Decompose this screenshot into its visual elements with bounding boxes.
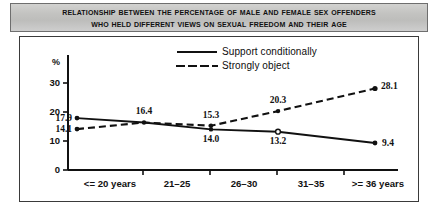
data-label-object-4: 28.1	[381, 81, 398, 91]
data-point-object-3	[276, 109, 280, 113]
x-tick-label-3: 31–35	[298, 178, 325, 189]
data-point-support-3	[276, 129, 281, 134]
x-tick-label-0: <= 20 years	[84, 178, 136, 189]
chart-title-banner: Relationship between the Percentage of M…	[10, 3, 428, 32]
y-tick-label-10: 10	[49, 135, 60, 146]
plot-frame: Support conditionally Strongly object	[19, 36, 419, 202]
data-point-object-2	[209, 124, 213, 128]
data-label-shared-1: 16.4	[136, 106, 153, 116]
data-label-object-3: 20.3	[270, 95, 287, 105]
chart-title-line-2: Who Held Different Views on Sexual Freed…	[91, 18, 347, 30]
x-tick-label-2: 26–30	[231, 178, 258, 189]
data-label-object-0: 14.1	[55, 124, 72, 134]
data-label-support-3: 13.2	[270, 136, 287, 146]
x-tick-label-4: >= 36 years	[352, 178, 404, 189]
data-label-object-2: 15.3	[203, 110, 220, 120]
y-axis-unit-label: %	[52, 57, 60, 67]
x-tick-label-1: 21–25	[164, 178, 191, 189]
data-label-support-2: 14.0	[203, 134, 220, 144]
y-tick-label-0: 0	[55, 164, 60, 175]
data-point-object-0	[75, 127, 80, 132]
series-line-strongly-object	[77, 89, 375, 130]
chart-plot-area: % 0 10 20 30 <= 20 years 21–25 26–30 31–…	[20, 37, 418, 201]
figure-container: Relationship between the Percentage of M…	[0, 0, 438, 210]
data-label-support-4: 9.4	[382, 138, 394, 148]
chart-title-line-1: Relationship between the Percentage of M…	[62, 6, 376, 18]
data-label-support-0: 17.9	[55, 113, 72, 123]
data-point-object-4	[372, 86, 377, 91]
y-tick-label-30: 30	[49, 77, 60, 88]
data-point-support-0	[75, 116, 80, 121]
data-point-support-4	[373, 141, 378, 146]
